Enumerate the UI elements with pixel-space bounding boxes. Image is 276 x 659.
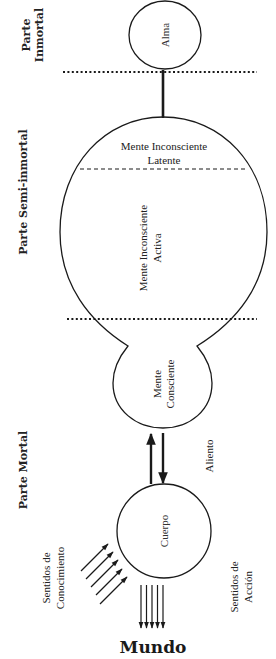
active-mind-line2: Activa	[151, 233, 163, 262]
soul-label: Alma	[159, 23, 171, 48]
action-senses-arrows	[141, 585, 163, 628]
node-body: Cuerpo	[117, 484, 211, 578]
diagonal-arrow-icon	[91, 560, 118, 587]
section-label-immortal: Parte Inmortal	[20, 8, 46, 62]
conscious-mind-line1: Mente	[151, 370, 163, 398]
section-label-immortal-line1: Parte	[20, 19, 33, 52]
breath-arrows	[151, 433, 163, 484]
conscious-mind-line2: Consciente	[164, 359, 176, 408]
node-soul: Alma	[129, 1, 201, 69]
action-senses-line2: Acción	[242, 571, 254, 603]
node-conscious-mind: Mente Consciente	[151, 359, 176, 408]
section-label-mortal: Parte Mortal	[17, 431, 30, 510]
knowledge-senses-line1: Sentidos de	[40, 552, 52, 603]
section-label-semi-immortal: Parte Semi-inmortal	[17, 129, 30, 254]
diagonal-arrow-icon	[100, 577, 127, 604]
latent-mind-line1: Mente Inconsciente	[121, 140, 208, 152]
action-senses-label: Sentidos de Acción	[228, 561, 254, 612]
diagonal-arrow-icon	[96, 569, 122, 595]
world-label: Mundo	[120, 637, 187, 657]
breath-label: Aliento	[203, 439, 215, 472]
diagonal-arrow-icon	[81, 544, 108, 571]
section-label-immortal-line2: Inmortal	[33, 8, 46, 62]
body-label: Cuerpo	[158, 514, 170, 547]
node-latent-mind: Mente Inconsciente Latente	[121, 140, 208, 166]
diagonal-arrow-icon	[86, 552, 113, 579]
mind-body-diagram: Parte Inmortal Parte Semi-inmortal Parte…	[0, 0, 276, 659]
action-senses-line1: Sentidos de	[228, 561, 240, 612]
knowledge-senses-line2: Conocimiento	[54, 546, 66, 609]
knowledge-senses-arrows	[81, 544, 127, 604]
node-active-mind: Mente Inconsciente Activa	[137, 205, 163, 292]
knowledge-senses-label: Sentidos de Conocimiento	[40, 546, 66, 609]
active-mind-line1: Mente Inconsciente	[137, 205, 149, 292]
latent-mind-line2: Latente	[148, 154, 181, 166]
